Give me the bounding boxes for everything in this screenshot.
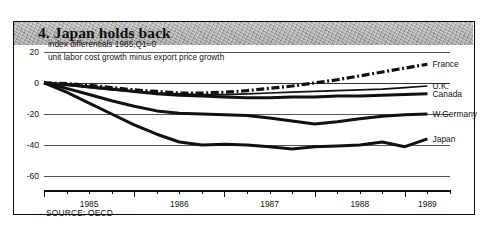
x-tick-minor xyxy=(247,190,248,194)
x-tick-label-1986: 1986 xyxy=(170,199,189,209)
x-tick-minor xyxy=(382,190,383,194)
series-label-france: France xyxy=(432,59,458,69)
series-label-canada: Canada xyxy=(432,89,462,99)
y-tick-label--40: -40 xyxy=(27,141,39,150)
x-tick-major xyxy=(405,190,406,197)
figure-root: 4. Japan holds back index differentials … xyxy=(0,0,488,229)
x-tick-minor xyxy=(337,190,338,194)
x-tick-minor xyxy=(112,190,113,194)
x-tick-minor xyxy=(427,190,428,194)
y-tick-label-0: 0 xyxy=(34,79,39,88)
x-tick-minor xyxy=(202,190,203,194)
x-tick-major xyxy=(134,190,135,197)
x-tick-major xyxy=(315,190,316,197)
series-label-w-germany: W.Germany xyxy=(432,109,477,119)
x-tick-minor xyxy=(450,190,451,194)
x-tick-minor xyxy=(270,190,271,194)
x-tick-minor xyxy=(360,190,361,194)
x-tick-label-1987: 1987 xyxy=(260,199,279,209)
x-tick-minor xyxy=(157,190,158,194)
x-tick-minor xyxy=(292,190,293,194)
source-note: SOURCE: OECD xyxy=(46,208,113,218)
y-tick-label--60: -60 xyxy=(27,172,39,181)
y-tick-label--20: -20 xyxy=(27,110,39,119)
x-tick-minor xyxy=(67,190,68,194)
x-tick-minor xyxy=(89,190,90,194)
x-axis: 19851986198719881989 xyxy=(44,190,450,192)
x-tick-major xyxy=(44,190,45,197)
x-tick-major xyxy=(224,190,225,197)
x-tick-label-1988: 1988 xyxy=(350,199,369,209)
x-tick-minor xyxy=(179,190,180,194)
x-tick-label-1989: 1989 xyxy=(418,199,437,209)
plot-area: 200-20-40-60 xyxy=(44,44,450,184)
series-lines xyxy=(44,44,450,184)
series-label-japan: Japan xyxy=(432,134,455,144)
y-tick-label-20: 20 xyxy=(30,48,39,57)
